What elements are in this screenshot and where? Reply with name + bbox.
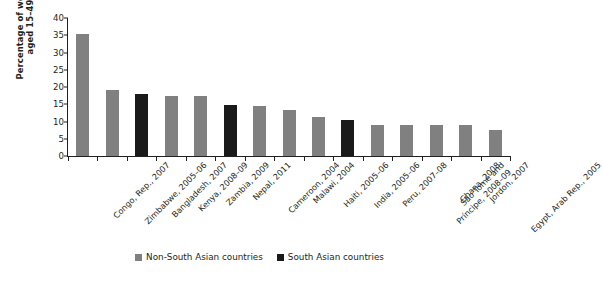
legend-swatch-icon: [277, 254, 284, 261]
x-axis-category-label: Egypt, Arab Rep., 2005: [529, 160, 603, 234]
legend-label: Non-South Asian countries: [146, 252, 263, 262]
bar: [106, 90, 119, 156]
bar: [135, 94, 148, 156]
bar: [430, 125, 443, 156]
y-axis-tick-label: 25: [53, 65, 64, 75]
bar: [400, 125, 413, 156]
bar: [253, 106, 266, 156]
legend-item: Non-South Asian countries: [135, 252, 263, 262]
bar: [224, 105, 237, 156]
y-axis-title-line-2: aged 15–49: [26, 0, 36, 79]
bar: [341, 120, 354, 156]
bar: [489, 130, 502, 156]
y-axis-tick-label: 20: [53, 82, 64, 92]
y-axis-tick-label: 30: [53, 48, 64, 58]
y-axis-tick-label: 15: [53, 99, 64, 109]
bar-series: [68, 18, 510, 156]
bar: [194, 96, 207, 156]
bar: [283, 110, 296, 156]
legend-swatch-icon: [135, 254, 142, 261]
x-axis-labels: Congo, Rep., 2007Zimbabwe, 2005–06Bangla…: [68, 158, 510, 248]
x-axis-line: [67, 156, 511, 157]
bar: [312, 117, 325, 156]
y-axis-tick-label: 35: [53, 30, 64, 40]
bar: [371, 125, 384, 156]
x-axis-category-label: São Tomé and Príncipe, 2008–09: [438, 160, 513, 235]
bar: [165, 96, 178, 156]
legend-item: South Asian countries: [277, 252, 384, 262]
y-axis-tick-label: 40: [53, 13, 64, 23]
y-axis-tick-label: 10: [53, 117, 64, 127]
y-axis-title: Percentage of women aged 15–49: [9, 0, 43, 97]
bar: [459, 125, 472, 156]
x-axis-tick-mark: [510, 157, 511, 161]
chart-legend: Non-South Asian countriesSouth Asian cou…: [0, 252, 519, 262]
legend-label: South Asian countries: [288, 252, 384, 262]
bar: [76, 34, 89, 156]
plot-area: 0510152025303540: [68, 18, 510, 156]
